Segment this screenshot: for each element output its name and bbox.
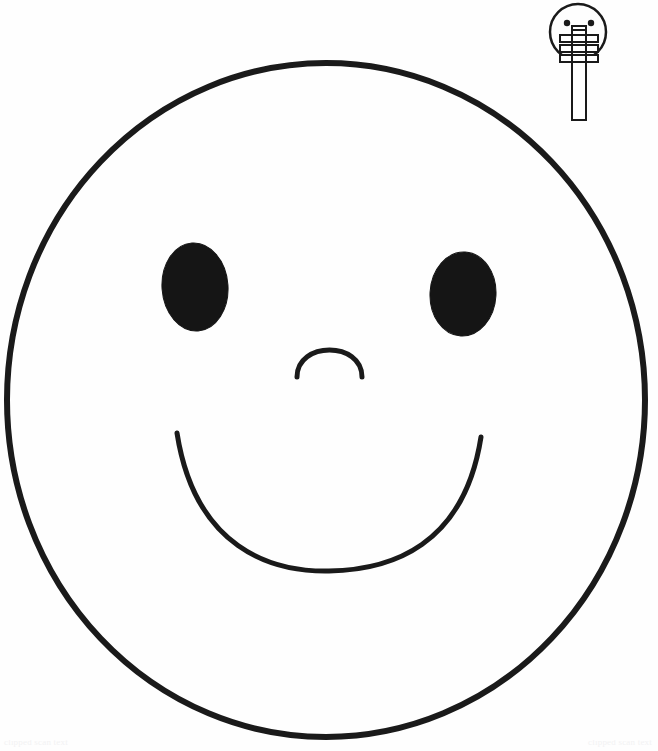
mask-handle-front-icon — [572, 30, 586, 120]
smiley-face-drawing — [0, 0, 658, 751]
page-canvas: clipped scan text clipped scan text — [0, 0, 658, 751]
mask-right-eye-icon — [588, 20, 594, 26]
mask-cross-bar-1-icon — [560, 35, 598, 42]
mask-cross-bar-3-icon — [560, 55, 598, 62]
mask-left-eye-icon — [564, 20, 570, 26]
mask-cross-bar-2-icon — [560, 45, 598, 52]
